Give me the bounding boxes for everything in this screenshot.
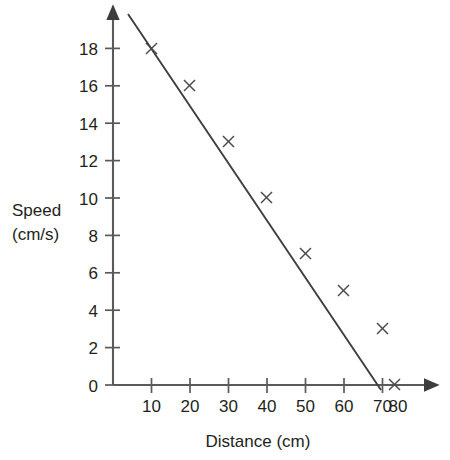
x-tick-label: 50 [296, 397, 315, 416]
y-tick-label: 16 [79, 77, 98, 96]
speed-distance-chart: 0 2 4 6 8 10 12 14 16 18 10 20 30 40 50 … [0, 0, 450, 460]
y-tick-label: 0 [89, 377, 98, 396]
y-tick-label: 4 [89, 302, 98, 321]
x-tick-label: 80 [389, 397, 408, 416]
y-tick-label: 12 [79, 152, 98, 171]
x-axis-title: Distance (cm) [206, 432, 311, 451]
x-tick-label: 40 [258, 397, 277, 416]
y-axis-title-line2: (cm/s) [12, 225, 59, 244]
y-tick-label: 2 [89, 339, 98, 358]
y-tick-label: 8 [89, 227, 98, 246]
x-tick-label: 60 [335, 397, 354, 416]
y-axis-title-line1: Speed [12, 201, 61, 220]
y-tick-label: 10 [79, 190, 98, 209]
y-tick-label: 14 [79, 115, 98, 134]
y-tick-label: 18 [79, 40, 98, 59]
x-tick-label: 20 [181, 397, 200, 416]
x-tick-label: 30 [219, 397, 238, 416]
x-tick-label: 10 [142, 397, 161, 416]
y-tick-label: 6 [89, 264, 98, 283]
